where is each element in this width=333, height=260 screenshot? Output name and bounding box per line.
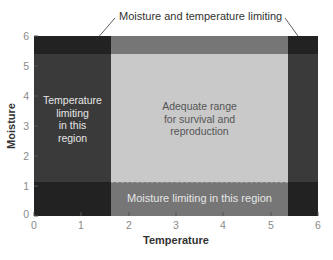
callout-line-right: [285, 18, 298, 36]
callout-line-left: [96, 18, 115, 40]
callout-label: Moisture and temperature limiting: [119, 10, 282, 22]
x-tick: 2: [122, 219, 136, 231]
y-tick: 3: [17, 120, 29, 132]
y-tick: 5: [17, 60, 29, 72]
x-tick: 1: [74, 219, 88, 231]
x-tick: 6: [311, 219, 325, 231]
axes-overlay: [0, 0, 333, 260]
y-axis-title: Moisture: [5, 101, 17, 151]
x-axis-title: Temperature: [143, 234, 209, 246]
x-tick: 4: [216, 219, 230, 231]
x-tick: 3: [169, 219, 183, 231]
x-tick: 0: [27, 219, 41, 231]
y-tick: 1: [17, 180, 29, 192]
y-tick: 4: [17, 90, 29, 102]
y-tick: 6: [17, 30, 29, 42]
y-tick: 2: [17, 150, 29, 162]
x-tick: 5: [264, 219, 278, 231]
